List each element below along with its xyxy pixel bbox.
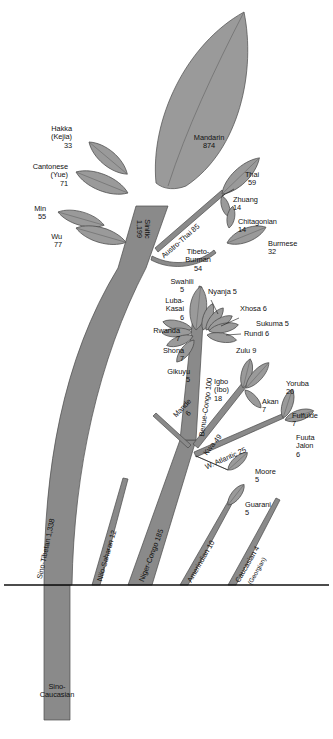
- leaf-label-zhuang: Zhuang 14: [233, 196, 291, 213]
- leaf-label-shona: Shona 7: [140, 347, 184, 364]
- leaf-label-thai: Thai 59: [232, 171, 272, 188]
- leaf-label-cantonese: Cantonese (Yue) 71: [0, 163, 68, 188]
- language-tree-figure: Sino- Caucasian Mandarin 874 Hakka (Keji…: [0, 0, 333, 739]
- branch-austro-thai: [155, 190, 225, 252]
- leaf-label-burmese: Burmese 32: [268, 240, 324, 257]
- leaf-label-min: Min 55: [4, 205, 46, 222]
- leaf-label-igbo: Igbo (Ibo) 18: [214, 378, 250, 403]
- leaf-label-yoruba: Yoruba 20: [286, 380, 332, 397]
- leaf-label-sukuma: Sukuma 5: [256, 320, 310, 328]
- leaf-label-luba-kasai: Luba- Kasai 6: [140, 297, 184, 322]
- root-label: Sino- Caucasian: [28, 683, 86, 700]
- leaf-label-rwanda: Rwanda 7: [132, 327, 180, 344]
- leaf-label-hakka: Hakka (Kejia) 33: [10, 125, 72, 150]
- leaf-label-fuuta-jalon: Fuuta Jalon 6: [296, 434, 333, 459]
- leaf-label-moore: Moore 5: [255, 468, 297, 485]
- leaf-label-mandarin: Mandarin 874: [182, 134, 236, 151]
- leaf-label-chitagonian: Chitagonian 14: [238, 218, 308, 235]
- leaf-label-zulu: Zulu 9: [236, 347, 278, 355]
- leaf-label-swahili: Swahili 5: [159, 278, 205, 295]
- leaf-label-nyanja: Nyanja 5: [208, 288, 258, 296]
- trunk-niger-congo: [128, 440, 196, 585]
- leaf-label-rundi: Rundi 6: [244, 330, 290, 338]
- branch-label-sinitic: Sinitic 1,199: [134, 206, 151, 252]
- leaf-label-xhosa: Xhosa 6: [240, 305, 286, 313]
- leaf-label-wu: Wu 77: [20, 233, 62, 250]
- leaf-label-gikuyu: Gikuyu 5: [144, 368, 190, 385]
- branch-label-tibeto-burman: Tibeto- Burman 54: [172, 248, 224, 273]
- leaf-label-fulfulde: Fulfulde 7: [292, 412, 333, 429]
